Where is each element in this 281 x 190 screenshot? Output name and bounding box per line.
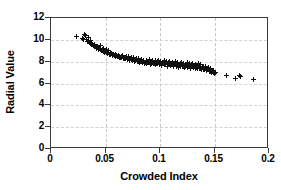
x-tick-label: 0.15 <box>194 154 234 164</box>
scatter-points-layer <box>51 18 267 147</box>
x-tick-label: 0.1 <box>139 154 179 164</box>
data-point <box>211 70 216 75</box>
data-point <box>224 73 229 78</box>
data-point <box>251 77 256 82</box>
scatter-chart-figure: 02468101200.050.10.150.2 Crowded Index R… <box>0 0 281 190</box>
y-axis-tick <box>45 39 50 40</box>
data-point <box>238 74 243 79</box>
y-axis-tick <box>45 104 50 105</box>
y-axis-tick <box>45 83 50 84</box>
y-axis-tick <box>45 61 50 62</box>
x-tick-label: 0.05 <box>85 154 125 164</box>
y-axis-title: Radial Value <box>4 17 16 148</box>
y-axis-tick <box>45 17 50 18</box>
x-axis-title: Crowded Index <box>50 170 268 182</box>
plot-area <box>50 17 268 148</box>
data-point <box>74 34 79 39</box>
x-tick-label: 0.2 <box>248 154 281 164</box>
y-axis-tick <box>45 126 50 127</box>
x-tick-label: 0 <box>30 154 70 164</box>
